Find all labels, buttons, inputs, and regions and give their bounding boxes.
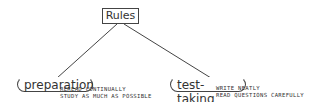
connector-root-preparation bbox=[57, 24, 117, 78]
connector-root-test-taking bbox=[124, 24, 211, 78]
root-label: Rules bbox=[106, 9, 136, 22]
notes-test-taking: WRITE NEATLY READ QUESTIONS CAREFULLY bbox=[216, 85, 304, 98]
note-line: STUDY AS MUCH AS POSSIBLE bbox=[60, 93, 152, 100]
note-line: READ QUESTIONS CAREFULLY bbox=[216, 92, 304, 99]
notes-preparation: REREAD CONTINUALLY STUDY AS MUCH AS POSS… bbox=[60, 86, 152, 99]
node-label: test-taking bbox=[177, 78, 215, 102]
root-node-rules: Rules bbox=[102, 8, 139, 24]
